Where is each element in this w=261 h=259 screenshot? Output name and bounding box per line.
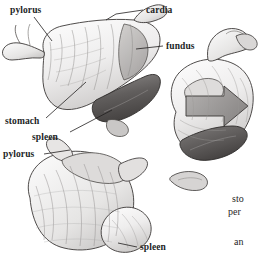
pylorus-fold-1 xyxy=(28,24,30,45)
view-bottom-left xyxy=(28,138,151,252)
label-stomach: stomach xyxy=(5,117,39,127)
pylorus-stem-1 xyxy=(15,25,20,43)
clipped-text-per: per xyxy=(228,207,241,217)
detached-sketch-element xyxy=(170,172,208,191)
leader-pylorus-top xyxy=(34,17,52,41)
label-fundus: fundus xyxy=(166,42,195,52)
pylorus-shape-1 xyxy=(2,43,44,60)
clipped-text-an: an xyxy=(234,237,243,247)
illustration-artwork xyxy=(0,0,261,259)
label-pylorus-bottom: pylorus xyxy=(3,150,34,160)
label-spleen-bottom: spleen xyxy=(140,243,166,253)
clipped-text-sto: sto xyxy=(232,194,244,204)
anatomy-figure: pylorus cardia fundus stomach spleen pyl… xyxy=(0,0,261,259)
accessory-lobe-1 xyxy=(106,119,128,136)
label-pylorus-top: pylorus xyxy=(10,6,41,16)
label-spleen-middle: spleen xyxy=(32,133,58,143)
label-cardia: cardia xyxy=(146,6,172,16)
duodenum-shape-3 xyxy=(119,158,148,181)
